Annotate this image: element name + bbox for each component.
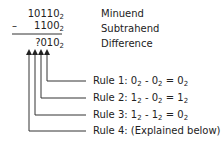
arrow-up-icon [26, 49, 32, 55]
rule-2: Rule 2: 12 - 02 = 12 [93, 92, 188, 104]
subtrahend-value: 11002 [20, 20, 64, 32]
difference-value: ?0102 [20, 37, 64, 49]
arrowheads [26, 49, 50, 55]
rule-1: Rule 1: 02 - 02 = 02 [93, 75, 188, 87]
arrow-up-icon [44, 49, 50, 55]
rule-4: Rule 4: (Explained below) [93, 125, 221, 137]
minus-sign: – [12, 20, 17, 32]
arrow-up-icon [32, 49, 38, 55]
subtrahend-label: Subtrahend [101, 23, 159, 35]
rule-3: Rule 3: 12 - 12 = 02 [93, 109, 188, 121]
arrow-leaders [29, 55, 86, 131]
minuend-label: Minuend [101, 8, 144, 20]
minuend-value: 101102 [20, 8, 64, 20]
arrow-up-icon [38, 49, 44, 55]
difference-label: Difference [101, 38, 153, 50]
